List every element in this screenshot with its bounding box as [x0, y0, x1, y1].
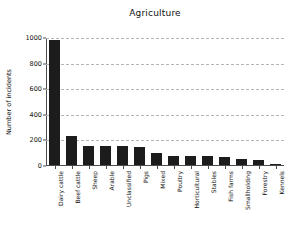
gridline: [46, 38, 284, 39]
x-axis-tick-label: Stables: [210, 171, 217, 193]
x-axis-tick-mark: [157, 166, 158, 169]
y-axis-tick-mark: [43, 89, 46, 90]
y-axis-tick-label: 600: [30, 85, 42, 93]
x-axis-tick-label: Beef cattle: [74, 171, 81, 204]
x-axis-tick-mark: [191, 166, 192, 169]
gridline: [46, 115, 284, 116]
y-axis-tick-mark: [43, 114, 46, 115]
x-axis-tick-label: Fish farms: [227, 171, 234, 202]
bar: [83, 146, 94, 165]
bar: [100, 146, 111, 165]
y-axis-tick-mark: [43, 166, 46, 167]
y-axis-title-text: Number of incidents: [5, 69, 13, 135]
plot-area: 02004006008001000 Dairy cattleBeef cattl…: [46, 38, 284, 166]
bar: [134, 147, 145, 165]
y-axis-tick-label: 1000: [25, 34, 42, 42]
x-axis-tick-mark: [225, 166, 226, 169]
gridline: [46, 64, 284, 65]
bar: [253, 160, 264, 165]
x-axis-tick-label: Unclassified: [125, 171, 132, 207]
bar: [168, 156, 179, 165]
x-axis-tick-label: Dairy cattle: [57, 171, 64, 206]
x-axis-tick-mark: [276, 166, 277, 169]
bar: [202, 156, 213, 165]
bar: [236, 159, 247, 165]
x-axis-tick-label: Mixed: [159, 171, 166, 189]
gridline: [46, 89, 284, 90]
x-axis-tick-mark: [72, 166, 73, 169]
x-axis-tick-mark: [140, 166, 141, 169]
x-axis-tick-mark: [55, 166, 56, 169]
x-axis-tick-mark: [259, 166, 260, 169]
x-axis-tick-mark: [208, 166, 209, 169]
x-axis-tick-label: Sheep: [91, 171, 98, 190]
bar: [270, 164, 281, 165]
x-axis-tick-label: Smallholding: [244, 171, 251, 210]
x-axis-tick-label: Horticultural: [193, 171, 200, 208]
bar: [151, 153, 162, 165]
chart-title: Agriculture: [0, 8, 288, 18]
x-axis-tick-label: Pigs: [142, 171, 149, 183]
y-axis-tick-label: 800: [30, 60, 42, 68]
x-axis-tick-mark: [174, 166, 175, 169]
y-axis-title: Number of incidents: [2, 38, 16, 166]
bar: [66, 136, 77, 165]
x-axis-line: [46, 165, 284, 166]
gridline: [46, 140, 284, 141]
y-axis-tick-mark: [43, 38, 46, 39]
y-axis-tick-mark: [43, 140, 46, 141]
bar: [117, 146, 128, 165]
x-axis-tick-label: Arable: [108, 171, 115, 190]
bar: [49, 40, 60, 165]
y-axis-line: [46, 38, 47, 166]
x-axis-tick-mark: [123, 166, 124, 169]
bar: [219, 157, 230, 165]
x-axis-tick-mark: [89, 166, 90, 169]
plot-frame: [46, 38, 284, 166]
y-axis-tick-label: 0: [38, 162, 42, 170]
x-axis-tick-mark: [106, 166, 107, 169]
agriculture-bar-chart: Agriculture Number of incidents 02004006…: [0, 0, 288, 227]
x-axis-tick-label: Forestry: [261, 171, 268, 195]
y-axis-tick-label: 200: [30, 136, 42, 144]
x-axis-tick-mark: [242, 166, 243, 169]
y-axis-tick-label: 400: [30, 111, 42, 119]
y-axis-tick-mark: [43, 63, 46, 64]
x-axis-tick-label: Kennels: [278, 171, 285, 194]
x-axis-tick-label: Poultry: [176, 171, 183, 192]
bar: [185, 156, 196, 165]
